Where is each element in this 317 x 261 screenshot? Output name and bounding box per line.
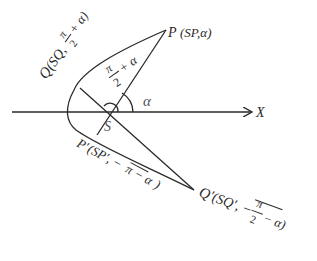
svg-text:P: P (167, 25, 177, 40)
label-p: P (SP,α) (167, 25, 212, 40)
angle-label-alpha: α (143, 93, 152, 109)
label-q: Q (SQ, π 2 + α) (30, 6, 96, 84)
origin-label-s: S (104, 119, 111, 134)
label-q-prime: Q′ (SQ′, − π 2 − α) (195, 177, 292, 236)
svg-text:(SP,α): (SP,α) (180, 25, 212, 40)
svg-text:(SP′, −: (SP′, − (85, 141, 125, 172)
svg-text:2: 2 (110, 75, 123, 90)
svg-text:(SQ′, −: (SQ′, − (210, 190, 254, 219)
svg-text:π − α: π − α (123, 161, 156, 188)
x-axis-label: X (255, 105, 265, 120)
focal-chord-diagram: X P (SP,α) α π 2 + α S Q (SQ, π 2 + α) P… (0, 0, 317, 261)
label-p-prime: P′ (SP′, − π − α ) (74, 135, 163, 192)
svg-text:π: π (255, 197, 265, 210)
svg-text:+ α: + α (116, 52, 141, 76)
svg-text:+ α): + α) (66, 9, 92, 37)
svg-text:− α): − α) (261, 210, 288, 232)
svg-text:2: 2 (67, 37, 80, 48)
svg-text:π: π (102, 60, 116, 75)
angle-arc-alpha (122, 93, 133, 112)
angle-label-pi-over-2-plus-alpha: π 2 + α (100, 46, 145, 90)
